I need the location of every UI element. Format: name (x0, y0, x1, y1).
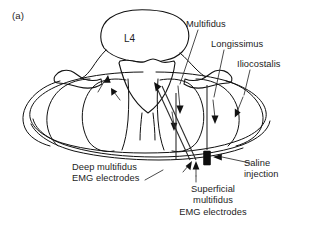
anatomy-illustration (0, 0, 313, 228)
label-saline-line-1: Saline (244, 158, 279, 169)
label-iliocostalis: Iliocostalis (237, 59, 281, 70)
label-deep-multifidus-electrodes: Deep multifidus EMG electrodes (72, 162, 139, 185)
label-deep-line-2: EMG electrodes (72, 173, 139, 184)
spinous-process (119, 59, 175, 113)
vertebra-body-outline (101, 10, 189, 62)
muscle-iliocostalis-right (226, 81, 263, 146)
saline-injection-marker (204, 151, 211, 165)
saline-injection-needle (204, 85, 211, 165)
label-superficial-multifidus-electrodes: Superficial multifidus EMG electrodes (167, 184, 259, 218)
lamina-stems (140, 113, 155, 140)
label-deep-line-1: Deep multifidus (72, 162, 139, 173)
figure-container: (a) L4 Multifidus Longissimus Iliocostal… (0, 0, 313, 228)
label-saline-injection: Saline injection (244, 158, 279, 181)
vertebra-label-l4: L4 (124, 33, 135, 44)
muscle-longissimus-right (196, 79, 239, 146)
label-superficial-line-3: EMG electrodes (167, 207, 259, 218)
label-superficial-line-1: Superficial (167, 184, 259, 195)
panel-letter: (a) (12, 10, 24, 21)
label-saline-line-2: injection (244, 169, 279, 180)
muscle-multifidus-left (82, 79, 129, 152)
label-superficial-line-2: multifidus (167, 195, 259, 206)
label-longissimus: Longissimus (211, 39, 263, 50)
muscle-longissimus-left (47, 79, 90, 146)
label-multifidus: Multifidus (186, 19, 226, 30)
